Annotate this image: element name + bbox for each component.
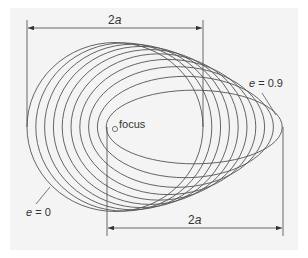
ellipse-family <box>27 43 282 212</box>
e-max-label: e = 0.9 <box>249 78 283 89</box>
e-min-leader-line <box>36 187 50 204</box>
bottom-dimension-var: a <box>195 213 202 227</box>
focus-marker-icon <box>112 126 117 131</box>
e-max-value: = 0.9 <box>255 77 283 89</box>
e-min-value: = 0 <box>32 206 51 218</box>
focus-label: focus <box>119 119 145 130</box>
ellipse-diagram <box>0 0 308 258</box>
bottom-dimension-label: 2a <box>188 214 201 226</box>
top-dimension-coef: 2 <box>108 13 115 27</box>
top-dimension-var: a <box>115 13 122 27</box>
e-min-label: e = 0 <box>26 207 51 218</box>
top-dimension-label: 2a <box>108 14 121 26</box>
bottom-dimension-coef: 2 <box>188 213 195 227</box>
